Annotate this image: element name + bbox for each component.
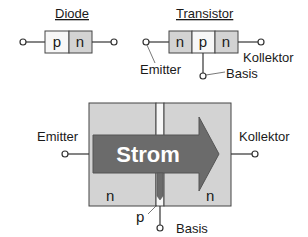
- emitter-label: Emitter: [37, 129, 79, 144]
- terminal-icon: [157, 225, 163, 231]
- layer-label: p: [199, 33, 207, 50]
- terminal-icon: [143, 39, 149, 45]
- terminal-icon: [62, 151, 68, 157]
- base-current-arrow-icon: [157, 173, 163, 200]
- terminal-icon: [252, 151, 258, 157]
- transistor-symbol: Transistor n p n Emitter Kollektor Basis: [140, 6, 294, 81]
- terminal-icon: [258, 39, 264, 45]
- current-label: Strom: [116, 142, 180, 167]
- terminal-icon: [200, 73, 206, 79]
- transistor-title: Transistor: [176, 6, 234, 21]
- transistor-emitter-label: Emitter: [140, 62, 182, 77]
- current-flow-diagram: Strom n n Emitter Kollektor Basis p: [37, 103, 290, 236]
- layer-label: n: [176, 33, 184, 50]
- transistor-diagram: Diode p n Transistor n p n Emitter Kolle…: [0, 0, 308, 237]
- transistor-collector-label: Kollektor: [243, 50, 294, 65]
- diode-title: Diode: [55, 6, 89, 21]
- transistor-base-label: Basis: [226, 66, 258, 81]
- p-label: p: [136, 208, 144, 225]
- terminal-icon: [20, 39, 26, 45]
- base-label: Basis: [176, 221, 208, 236]
- n-left-label: n: [106, 187, 114, 204]
- collector-label: Kollektor: [239, 129, 290, 144]
- diode-symbol: Diode p n: [20, 6, 117, 53]
- diode-p-label: p: [53, 33, 61, 50]
- n-right-label: n: [206, 187, 214, 204]
- terminal-icon: [111, 39, 117, 45]
- diode-n-label: n: [76, 33, 84, 50]
- layer-label: n: [222, 33, 230, 50]
